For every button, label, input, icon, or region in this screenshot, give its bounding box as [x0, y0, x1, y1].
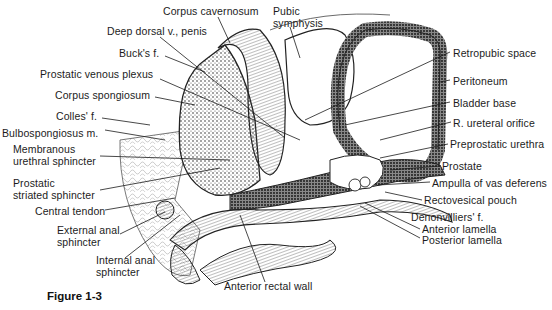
- label-prostatic-striated-sphincter-2: striated sphincter: [13, 189, 95, 201]
- label-prostatic-striated-sphincter-1: Prostatic: [13, 177, 55, 189]
- label-anterior-rectal-wall: Anterior rectal wall: [224, 280, 312, 292]
- label-corpus-cavernosum: Corpus cavernosum: [163, 5, 259, 17]
- label-corpus-spongiosum: Corpus spongiosum: [55, 89, 150, 101]
- label-ureteral-orifice: R. ureteral orifice: [453, 117, 535, 129]
- label-preprostatic-urethra: Preprostatic urethra: [450, 138, 544, 150]
- label-peritoneum: Peritoneum: [453, 75, 508, 87]
- label-deep-dorsal-vein: Deep dorsal v., penis: [107, 25, 207, 37]
- label-bucks-fascia: Buck's f.: [119, 47, 159, 59]
- label-bulbospongiosus: Bulbospongiosus m.: [2, 127, 98, 139]
- label-prostate: Prostate: [442, 160, 482, 172]
- label-membranous-urethral-sphincter-1: Membranous: [13, 143, 75, 155]
- label-pubic-symphysis-2: symphysis: [273, 17, 323, 29]
- external-anal-sphincter-shape: [156, 201, 174, 219]
- anatomy-figure: Corpus cavernosum Deep dorsal v., penis …: [0, 0, 552, 310]
- label-bladder-base: Bladder base: [453, 97, 516, 109]
- label-denonvilliers-fascia: Denonvilliers' f.: [411, 211, 484, 223]
- label-retropubic-space: Retropubic space: [453, 47, 536, 59]
- label-prostatic-venous-plexus: Prostatic venous plexus: [40, 68, 153, 80]
- label-external-anal-sphincter-2: sphincter: [57, 236, 101, 248]
- label-colles-fascia: Colles' f.: [56, 110, 97, 122]
- label-membranous-urethral-sphincter-2: urethral sphincter: [13, 155, 96, 167]
- bladder-wall: [338, 28, 441, 175]
- label-central-tendon: Central tendon: [35, 205, 105, 217]
- rectal-wall: [170, 200, 452, 250]
- label-internal-anal-sphincter-1: Internal anal: [96, 254, 155, 266]
- label-posterior-lamella: Posterior lamella: [422, 234, 502, 246]
- label-pubic-symphysis-1: Pubic: [273, 5, 300, 17]
- label-external-anal-sphincter-1: External anal: [57, 224, 120, 236]
- label-internal-anal-sphincter-2: sphincter: [96, 266, 140, 278]
- label-rectovesical-pouch: Rectovesical pouch: [424, 194, 517, 206]
- label-ampulla-vas-deferens: Ampulla of vas deferens: [432, 177, 547, 189]
- figure-caption: Figure 1-3: [47, 290, 102, 302]
